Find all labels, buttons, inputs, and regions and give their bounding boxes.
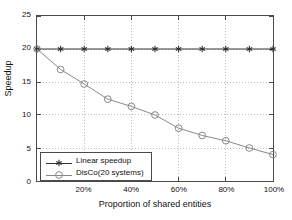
y-tick-label: 10 — [22, 111, 31, 119]
chart-legend: Linear speedupDisCo(20 systems) — [40, 152, 152, 181]
legend-item: DisCo(20 systems) — [44, 167, 148, 179]
x-tick-label: 80% — [218, 186, 234, 194]
y-tick-label: 5 — [27, 145, 31, 153]
x-axis-tick-labels: 20%40%60%80%100% — [36, 186, 274, 198]
series-line — [37, 49, 273, 155]
y-axis-title: Speedup — [4, 49, 13, 109]
x-tick-label: 60% — [171, 186, 187, 194]
legend-asterisk-icon — [44, 155, 74, 167]
legend-label: Linear speedup — [76, 157, 131, 165]
x-tick-label: 100% — [264, 186, 284, 194]
y-tick-label: 25 — [22, 11, 31, 19]
y-tick-label: 0 — [27, 178, 31, 186]
speedup-chart: 0510152025 Speedup 20%40%60%80%100% Prop… — [0, 0, 292, 220]
y-tick-label: 15 — [22, 78, 31, 86]
legend-label: DisCo(20 systems) — [76, 169, 144, 177]
x-axis-title: Proportion of shared entities — [36, 199, 274, 209]
legend-circle-icon — [44, 167, 74, 179]
x-tick-label: 40% — [123, 186, 139, 194]
y-tick-label: 20 — [22, 44, 31, 52]
legend-item: Linear speedup — [44, 155, 148, 167]
x-tick-label: 20% — [76, 186, 92, 194]
